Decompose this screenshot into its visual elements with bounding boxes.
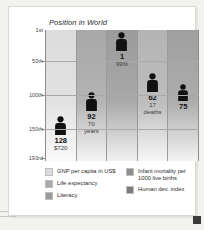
legend-swatch-icon bbox=[45, 168, 53, 176]
chart-figure: Position in World 1st 50th 100th 150th 1… bbox=[23, 18, 199, 218]
y-tick-label-1st: 1st bbox=[3, 27, 43, 33]
legend-swatch-icon bbox=[126, 168, 134, 176]
legend-label: GNP per capita in US$ bbox=[57, 168, 116, 175]
y-tick-label-50th: 50th bbox=[3, 58, 43, 64]
y-tick-label-150th: 150th bbox=[3, 126, 43, 132]
data-point-rank: 128 bbox=[55, 136, 68, 145]
legend-label-line1: Infant mortality per bbox=[138, 168, 186, 174]
gridline-150th bbox=[45, 129, 199, 130]
person-icon bbox=[177, 84, 189, 101]
legend-swatch-icon bbox=[126, 186, 134, 194]
legend-label-line2: 1000 live births bbox=[138, 175, 177, 181]
screenshot-root: Position in World 1st 50th 100th 150th 1… bbox=[0, 0, 204, 230]
chart-title: Position in World bbox=[49, 18, 107, 27]
data-point-detail-line1: 17 bbox=[149, 102, 156, 109]
chart-legend: GNP per capita in US$ Life expectancy Li… bbox=[45, 168, 199, 204]
document-sheet: Position in World 1st 50th 100th 150th 1… bbox=[8, 6, 196, 216]
person-icon bbox=[115, 32, 128, 51]
gridline-50th bbox=[45, 61, 199, 62]
legend-label: Life expectancy bbox=[57, 180, 97, 187]
legend-item-gnp-per-capita[interactable]: GNP per capita in US$ bbox=[45, 168, 118, 176]
y-tick-label-193rd: 193rd bbox=[3, 155, 43, 161]
data-point-detail-line1: 70 bbox=[88, 121, 95, 128]
legend-swatch-icon bbox=[45, 180, 53, 188]
resize-handle[interactable] bbox=[193, 216, 201, 224]
legend-item-life-expectancy[interactable]: Life expectancy bbox=[45, 180, 118, 188]
person-icon bbox=[146, 73, 159, 92]
legend-column-right: Infant mortality per 1000 live births Hu… bbox=[126, 168, 199, 204]
data-point-detail-line1: $720 bbox=[54, 145, 67, 152]
data-point-human-dev-index: 75 bbox=[168, 84, 198, 111]
data-point-detail-line1: 99% bbox=[116, 61, 128, 68]
data-point-literacy: 1 99% bbox=[107, 32, 137, 68]
legend-item-infant-mortality[interactable]: Infant mortality per 1000 live births bbox=[126, 168, 199, 182]
person-icon bbox=[54, 116, 67, 135]
page-rule-line-bottom bbox=[0, 216, 16, 217]
legend-item-literacy[interactable]: Literacy bbox=[45, 192, 118, 200]
legend-label: Human dev. index bbox=[138, 186, 184, 193]
data-point-detail-line2: deaths bbox=[144, 109, 162, 116]
data-point-rank: 75 bbox=[179, 102, 187, 111]
legend-label: Literacy bbox=[57, 192, 77, 199]
y-tick-label-100th: 100th bbox=[3, 92, 43, 98]
data-point-rank: 92 bbox=[87, 112, 95, 121]
gridline-100th bbox=[45, 95, 199, 96]
data-point-rank: 1 bbox=[120, 52, 124, 61]
data-point-gnp-per-capita: 128 $720 bbox=[46, 116, 76, 152]
legend-column-left: GNP per capita in US$ Life expectancy Li… bbox=[45, 168, 118, 204]
legend-item-human-dev-index[interactable]: Human dev. index bbox=[126, 186, 199, 194]
legend-swatch-icon bbox=[45, 192, 53, 200]
